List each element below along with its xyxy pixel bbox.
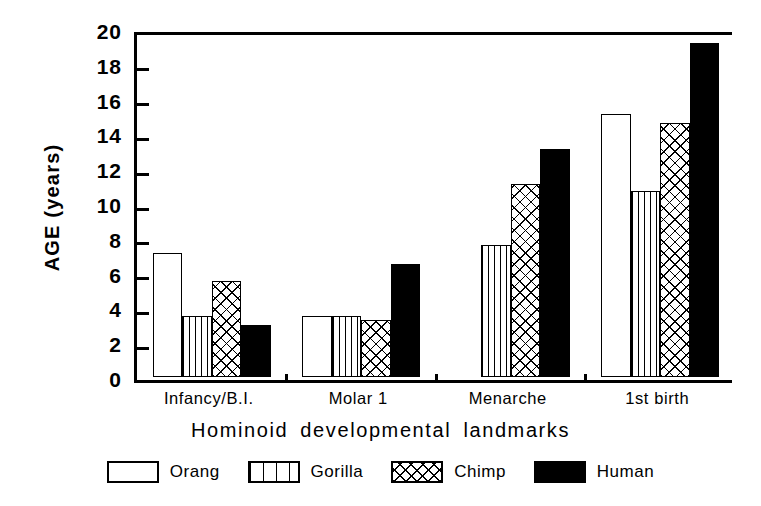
y-axis-tick-label: 0 [62,369,122,390]
bar-orang-0 [153,253,183,377]
bar-orang-1 [302,316,332,377]
bar-human-1 [391,264,421,377]
bar-chart-figure: AGE (years) 02468101214161820 Infancy/B.… [0,0,761,506]
y-axis-tick-label: 6 [62,265,122,286]
bar-gorilla-1 [332,316,362,377]
y-axis-tick [136,103,149,106]
bar-chimp-3 [660,123,690,377]
chart-legend: OrangGorillaChimpHuman [0,461,761,483]
y-axis-title: AGE (years) [41,68,64,348]
y-axis-tick [136,173,149,176]
x-axis-tick [435,374,438,383]
legend-item-chimp[interactable]: Chimp [391,461,506,483]
x-axis-category-label: Menarche [433,389,583,408]
x-axis-title: Hominoid developmental landmarks [0,419,761,442]
legend-label: Orang [170,462,220,482]
legend-label: Gorilla [311,462,364,482]
bar-chimp-1 [361,320,391,377]
bar-human-2 [540,149,570,377]
x-axis-tick [584,374,587,383]
legend-item-orang[interactable]: Orang [107,461,220,483]
legend-item-gorilla[interactable]: Gorilla [248,461,364,483]
x-axis-category-label: Infancy/B.I. [134,389,284,408]
x-axis-category-label: Molar 1 [284,389,434,408]
legend-item-human[interactable]: Human [534,461,654,483]
y-axis-tick [136,312,149,315]
y-axis-tick [136,347,149,350]
y-axis-tick-label: 4 [62,299,122,320]
bar-orang-3 [601,114,631,377]
y-axis-tick-label: 10 [62,195,122,216]
y-axis-tick-label: 18 [62,56,122,77]
legend-label: Chimp [454,462,506,482]
y-axis-tick [136,242,149,245]
y-axis-tick-label: 8 [62,230,122,251]
bar-gorilla-0 [182,316,212,377]
legend-swatch-orang [107,461,159,483]
legend-label: Human [597,462,654,482]
bar-chimp-0 [212,281,242,377]
y-axis-tick-label: 12 [62,160,122,181]
y-axis-tick-label: 16 [62,91,122,112]
y-axis-tick-label: 20 [62,21,122,42]
x-axis-category-label: 1st birth [583,389,733,408]
y-axis-tick-label: 14 [62,125,122,146]
bar-gorilla-2 [481,245,511,377]
bar-gorilla-3 [631,191,661,377]
legend-swatch-chimp [391,461,443,483]
y-axis-tick [136,208,149,211]
bar-human-0 [241,325,271,377]
y-axis-tick [136,68,149,71]
y-axis-tick [136,277,149,280]
legend-swatch-human [534,461,586,483]
bar-human-3 [690,43,720,377]
bar-chimp-2 [511,184,541,377]
y-axis-tick [136,138,149,141]
y-axis-tick-label: 2 [62,334,122,355]
plot-area [134,32,732,383]
legend-swatch-gorilla [248,461,300,483]
x-axis-tick [285,374,288,383]
